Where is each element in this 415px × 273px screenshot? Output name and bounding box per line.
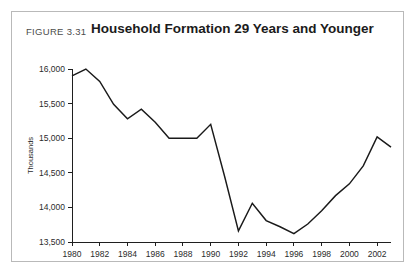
x-tick-label: 1994 [257,249,276,259]
x-tick-label: 2000 [340,249,359,259]
x-tick-label: 1998 [312,249,331,259]
x-tick-label: 1988 [173,249,192,259]
x-tick-label: 1980 [63,249,82,259]
x-tick-label: 1982 [90,249,109,259]
y-tick-label: 16,000 [39,64,65,74]
y-tick-label: 14,000 [39,202,65,212]
x-tick-label: 1996 [284,249,303,259]
y-tick-label: 15,500 [39,99,65,109]
x-tick-label: 1990 [201,249,220,259]
chart-plot-area: 13,50014,00014,50015,00015,50016,000Thou… [12,12,405,263]
y-tick-label: 15,000 [39,133,65,143]
x-tick-label: 1986 [146,249,165,259]
y-tick-label: 13,500 [39,237,65,247]
x-tick-label: 1984 [118,249,137,259]
x-tick-label: 2002 [368,249,387,259]
line-chart: 13,50014,00014,50015,00015,50016,000Thou… [12,12,405,263]
y-axis-title: Thousands [26,137,35,174]
figure-card: FIGURE 3.31 Household Formation 29 Years… [11,11,404,262]
x-tick-label: 1992 [229,249,248,259]
data-series-line [72,69,391,234]
y-tick-label: 14,500 [39,168,65,178]
